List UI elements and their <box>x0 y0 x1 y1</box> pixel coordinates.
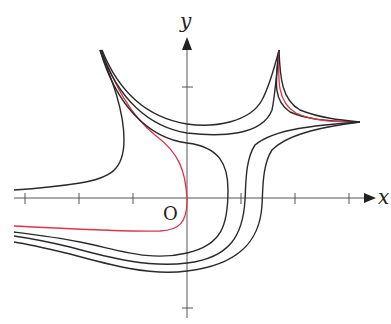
x-axis-label: x <box>378 185 389 209</box>
axes <box>14 37 376 318</box>
phase-portrait-diagram: y x O <box>0 0 391 324</box>
upper-right-curves <box>276 50 360 122</box>
x-axis-arrow-icon <box>364 193 376 203</box>
y-axis-arrow-icon <box>182 37 192 50</box>
origin-label: O <box>163 203 178 224</box>
upper-left-curves <box>14 50 279 256</box>
y-axis-label: y <box>179 9 192 33</box>
